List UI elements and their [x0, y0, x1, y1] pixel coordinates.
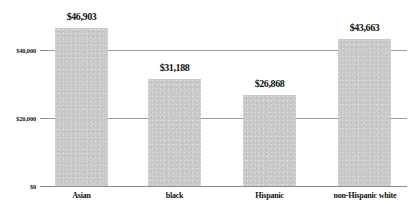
bar-value-label-non-hispanic-white: $43,663 [324, 22, 405, 33]
bar-chart: $40,000 $20,000 $0 $46,903 Asian $31,188… [0, 0, 415, 211]
category-label-non-hispanic-white: non-Hispanic white [320, 191, 410, 200]
bar-value-label-asian: $46,903 [41, 11, 122, 22]
y-axis-label-20000: $20,000 [16, 115, 36, 122]
tick-mark-40000 [40, 50, 46, 51]
category-label-hispanic: Hispanic [229, 191, 310, 200]
tick-mark-0 [40, 186, 46, 187]
bar-value-label-hispanic: $26,868 [229, 78, 310, 89]
bar-black [148, 79, 201, 186]
bar-non-hispanic-white [338, 39, 391, 186]
y-axis-label-40000: $40,000 [16, 47, 36, 54]
category-label-black: black [134, 191, 215, 200]
bar-asian [55, 28, 108, 186]
y-axis-label-0: $0 [30, 183, 36, 190]
tick-mark-20000 [40, 118, 46, 119]
bar-value-label-black: $31,188 [134, 62, 215, 73]
plot-area: $40,000 $20,000 $0 $46,903 Asian $31,188… [0, 0, 415, 211]
axis-baseline [46, 186, 407, 187]
bar-hispanic [243, 95, 296, 186]
category-label-asian: Asian [41, 191, 122, 200]
